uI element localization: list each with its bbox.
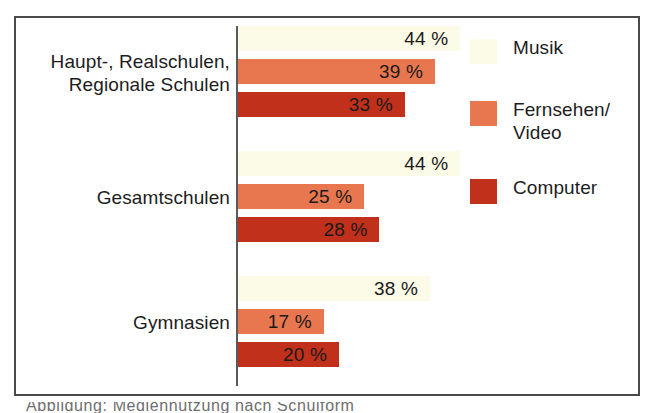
plot-area: Haupt-, Realschulen, Regionale Schulen 4… bbox=[16, 18, 638, 394]
legend-label-musik: Musik bbox=[513, 36, 563, 59]
bar-value-musik-2: 38 % bbox=[374, 276, 418, 301]
figure-caption-text: Abbildung: Mediennutzung nach Schulform bbox=[26, 402, 355, 413]
chart-figure: Haupt-, Realschulen, Regionale Schulen 4… bbox=[0, 0, 651, 413]
category-label-0: Haupt-, Realschulen, Regionale Schulen bbox=[51, 50, 230, 96]
bar-value-musik-0: 44 % bbox=[404, 26, 448, 51]
bar-value-computer-2: 20 % bbox=[283, 342, 327, 367]
legend-label-computer: Computer bbox=[513, 176, 597, 199]
figure-caption-cropped: Abbildung: Mediennutzung nach Schulform bbox=[26, 402, 626, 413]
bar-group-gesamtschulen: Gesamtschulen 44 % 25 % 28 % bbox=[16, 151, 638, 266]
category-label-1: Gesamtschulen bbox=[97, 186, 230, 209]
bar-value-fernsehen-0: 39 % bbox=[379, 59, 423, 84]
legend-swatch-computer-icon bbox=[470, 179, 497, 204]
legend-swatch-fernsehen-icon bbox=[470, 101, 497, 126]
legend-swatch-musik-icon bbox=[470, 39, 497, 64]
category-label-2: Gymnasien bbox=[133, 311, 230, 334]
bar-value-musik-1: 44 % bbox=[404, 151, 448, 176]
legend-label-fernsehen: Fernsehen/ Video bbox=[513, 98, 610, 144]
bar-value-fernsehen-1: 25 % bbox=[308, 184, 352, 209]
bar-value-fernsehen-2: 17 % bbox=[268, 309, 312, 334]
bar-value-computer-1: 28 % bbox=[323, 217, 367, 242]
bar-value-computer-0: 33 % bbox=[349, 92, 393, 117]
bar-group-gymnasien: Gymnasien 38 % 17 % 20 % bbox=[16, 276, 638, 391]
